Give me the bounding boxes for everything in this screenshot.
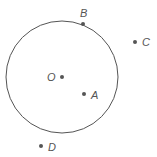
point-o [60,75,64,79]
point-c [133,40,137,44]
label-c: C [142,36,150,48]
circle-points-diagram: B C O A D [0,0,157,157]
point-a [82,92,86,96]
label-a: A [90,89,98,101]
point-b [81,22,85,26]
label-o: O [47,71,56,83]
diagram-canvas: B C O A D [0,0,157,157]
label-b: B [80,7,87,19]
label-d: D [48,141,56,153]
point-d [39,144,43,148]
